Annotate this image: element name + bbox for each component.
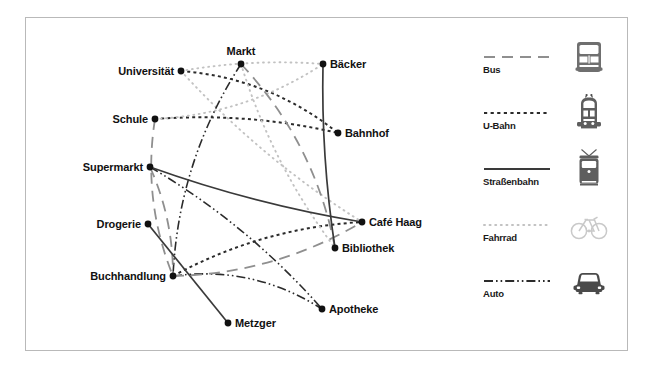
node-label-drogerie: Drogerie: [97, 219, 141, 230]
legend-label-bus: Bus: [483, 64, 500, 75]
legend-row-fahrrad: Fahrrad: [483, 208, 628, 254]
edge-markt-buchhandlung: [173, 64, 241, 276]
edge-schule-bahnhof: [155, 117, 338, 133]
node-label-metzger: Metzger: [235, 318, 276, 329]
node-universitaet[interactable]: [178, 68, 185, 75]
edges-layer: [148, 62, 362, 323]
legend-line-sample-bus: [483, 50, 551, 64]
edge-buchhandlung-apotheke: [173, 274, 322, 309]
node-drogerie[interactable]: [145, 221, 152, 228]
legend-row-auto: Auto: [483, 264, 628, 310]
legend-line-sample-auto: [483, 274, 551, 288]
nodes-layer: [145, 61, 366, 327]
edge-universitaet-baecker: [181, 62, 323, 71]
legend-row-strassenbahn: Straßenbahn: [483, 152, 628, 198]
legend-line-sample-fahrrad: [483, 218, 551, 232]
legend-label-strassenbahn: Straßenbahn: [483, 176, 539, 187]
node-label-baecker: Bäcker: [330, 59, 366, 70]
node-label-universitaet: Universität: [118, 66, 174, 77]
tram-icon: [567, 148, 611, 192]
node-apotheke[interactable]: [319, 306, 326, 313]
node-markt[interactable]: [238, 61, 245, 68]
node-supermarkt[interactable]: [147, 164, 154, 171]
node-label-bibliothek: Bibliothek: [342, 243, 394, 254]
node-label-cafe_haag: Café Haag: [369, 217, 422, 228]
legend-label-u-bahn: U-Bahn: [483, 120, 516, 131]
legend-line-sample-u-bahn: [483, 106, 551, 120]
node-label-markt: Markt: [227, 46, 256, 57]
legend-row-bus: Bus: [483, 40, 628, 86]
bicycle-icon: [567, 204, 611, 248]
node-label-bahnhof: Bahnhof: [345, 128, 389, 139]
node-bibliothek[interactable]: [332, 245, 339, 252]
transport-network-figure: .e-bus { stroke:#8f8f8f; stroke-width:1.…: [0, 0, 652, 370]
subway-train-icon: [567, 92, 611, 136]
node-label-supermarkt: Supermarkt: [83, 162, 143, 173]
legend-line-sample-strassenbahn: [483, 162, 551, 176]
edge-universitaet-bahnhof: [181, 71, 338, 133]
car-icon: [567, 260, 611, 304]
node-buchhandlung[interactable]: [170, 273, 177, 280]
node-baecker[interactable]: [320, 61, 327, 68]
edge-schule-buchhandlung: [151, 119, 173, 276]
edge-markt-bibliothek: [241, 64, 335, 248]
edge-supermarkt-buchhandlung: [150, 167, 173, 276]
legend: Bus U-Bahn Stra: [483, 40, 628, 320]
node-metzger[interactable]: [225, 320, 232, 327]
node-label-schule: Schule: [113, 114, 148, 125]
legend-row-u-bahn: U-Bahn: [483, 96, 628, 142]
node-schule[interactable]: [152, 116, 159, 123]
network-map-svg: .e-bus { stroke:#8f8f8f; stroke-width:1.…: [26, 18, 466, 350]
node-label-buchhandlung: Buchhandlung: [90, 271, 166, 282]
bus-icon: [567, 36, 611, 80]
legend-label-fahrrad: Fahrrad: [483, 232, 517, 243]
edge-markt-bibliothek: [241, 64, 335, 248]
node-cafe_haag[interactable]: [359, 219, 366, 226]
network-map: .e-bus { stroke:#8f8f8f; stroke-width:1.…: [26, 18, 466, 350]
legend-label-auto: Auto: [483, 288, 504, 299]
node-label-apotheke: Apotheke: [329, 304, 378, 315]
node-bahnhof[interactable]: [335, 130, 342, 137]
